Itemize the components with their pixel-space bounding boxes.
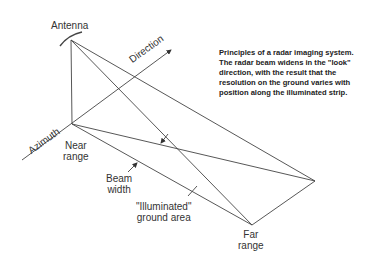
far-range-label: Far range [238,229,264,251]
near-range-label: Near range [63,140,89,162]
far-range-line2: range [238,240,264,251]
beam-width-arrow-lower [128,163,137,172]
beam-width-line2: width [106,184,132,195]
beam-width-line1: Beam [106,173,132,184]
illuminated-line1: "Illuminated" [136,201,191,212]
figure-caption: Principles of a radar imaging system. Th… [219,48,379,98]
caption-line: position along the illuminated strip. [219,88,379,98]
beam-width-label: Beam width [106,173,132,195]
illuminated-line2: ground area [136,212,191,223]
caption-line: Principles of a radar imaging system. [219,48,379,58]
near-range-line1: Near [63,140,89,151]
antenna-label: Antenna [51,20,88,31]
caption-line: direction, with the result that the [219,68,379,78]
far-to-right-edge [252,181,315,225]
illuminated-area-label: "Illuminated" ground area [136,201,191,223]
radar-diagram: Antenna Direction Azimuth Near range Bea… [0,0,379,263]
near-range-line2: range [63,151,89,162]
caption-line: resolution on the ground varies with [219,78,379,88]
far-range-line1: Far [238,229,264,240]
vertical-line [71,40,72,124]
illuminated-leader [188,186,197,196]
caption-line: The radar beam widens in the "look" [219,58,379,68]
